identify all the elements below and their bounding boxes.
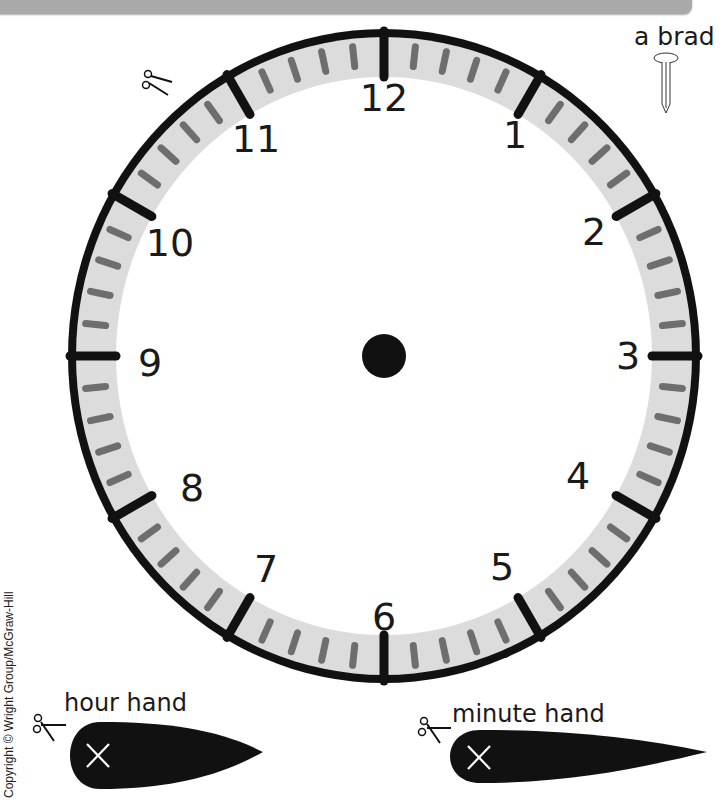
clock-number-6: 6: [372, 595, 396, 639]
clock-number-8: 8: [180, 466, 204, 510]
copyright-notice: Copyright © Wright Group/McGraw-Hill: [2, 591, 16, 798]
minute-hand-label: minute hand: [452, 700, 605, 728]
minute-hand-cutout: [450, 730, 707, 783]
clock-number-5: 5: [490, 545, 514, 589]
clock-number-10: 10: [146, 221, 194, 265]
clock-number-3: 3: [616, 334, 640, 378]
brad-label: a brad: [634, 22, 715, 51]
minute-tick: [442, 52, 446, 72]
minute-tick: [86, 323, 106, 325]
minute-tick: [91, 417, 111, 421]
minute-tick: [413, 47, 415, 67]
scissors-icon: [143, 71, 173, 96]
brad-icon: [654, 53, 678, 113]
center-pivot-dot: [362, 334, 406, 378]
minute-tick: [322, 641, 326, 661]
clock-number-1: 1: [503, 113, 527, 157]
minute-tick: [353, 47, 355, 67]
minute-tick: [658, 291, 678, 295]
minute-tick: [413, 645, 415, 665]
minute-tick: [658, 417, 678, 421]
clock-number-7: 7: [254, 547, 278, 591]
minute-tick: [91, 291, 111, 295]
hour-hand-cutout: [70, 722, 263, 789]
minute-tick: [442, 641, 446, 661]
scissors-icon: [419, 718, 452, 744]
minute-tick: [662, 386, 682, 388]
clock-number-11: 11: [232, 117, 280, 161]
minute-tick: [322, 52, 326, 72]
scissors-icon: [34, 715, 67, 742]
clock-number-2: 2: [582, 210, 606, 254]
clock-number-9: 9: [138, 341, 162, 385]
minute-tick: [662, 323, 682, 325]
hour-hand-label: hour hand: [64, 689, 187, 717]
clock-number-4: 4: [566, 454, 590, 498]
clock-number-12: 12: [360, 76, 408, 120]
minute-tick: [353, 645, 355, 665]
minute-tick: [86, 386, 106, 388]
